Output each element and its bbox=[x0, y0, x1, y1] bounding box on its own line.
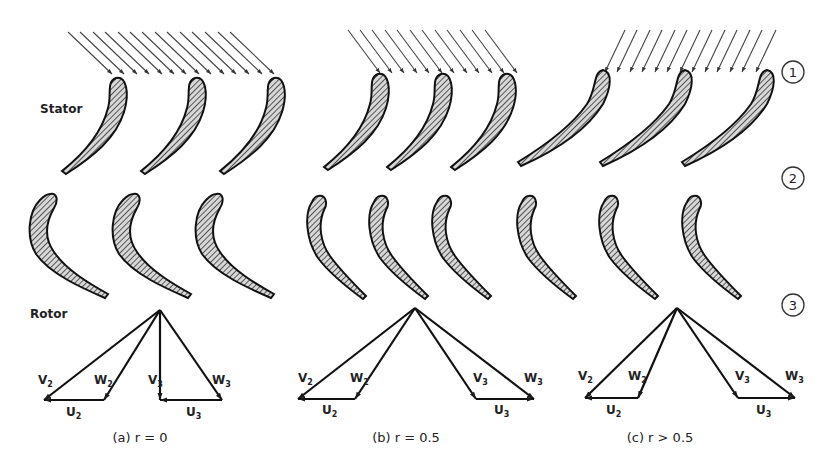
svg-text:W3: W3 bbox=[524, 371, 543, 387]
station-3-marker: 3 bbox=[782, 294, 804, 316]
svg-text:W3: W3 bbox=[212, 373, 231, 389]
caption-a: (a) r = 0 bbox=[112, 430, 167, 445]
station-2-marker: 2 bbox=[782, 167, 804, 189]
turbine-stage-diagram: Stator bbox=[0, 0, 835, 465]
stator-row: Stator bbox=[40, 30, 776, 174]
w3-vector bbox=[677, 308, 795, 398]
rotor-blade bbox=[599, 196, 658, 299]
svg-text:U2: U2 bbox=[322, 403, 337, 419]
svg-text:U2: U2 bbox=[606, 403, 621, 419]
rotor-blade bbox=[517, 196, 576, 299]
rotor-blade bbox=[682, 196, 741, 299]
rotor-blade bbox=[196, 194, 274, 298]
w3-vector bbox=[415, 308, 534, 399]
rotor-blade bbox=[307, 196, 366, 299]
svg-text:W2: W2 bbox=[350, 371, 369, 387]
station-markers: 1 2 3 bbox=[782, 61, 804, 316]
svg-text:V3: V3 bbox=[473, 371, 488, 387]
svg-text:2: 2 bbox=[789, 171, 797, 186]
caption-b: (b) r = 0.5 bbox=[372, 430, 440, 445]
velocity-triangle-a bbox=[44, 310, 222, 400]
velocity-labels-a: V2 W2 V3 W3 U2 U3 bbox=[38, 373, 231, 421]
svg-text:V2: V2 bbox=[298, 371, 313, 387]
svg-text:3: 3 bbox=[789, 298, 797, 313]
rotor-blade bbox=[432, 196, 491, 299]
svg-text:W2: W2 bbox=[628, 369, 647, 385]
rotor-row bbox=[30, 194, 741, 299]
stator-blade bbox=[451, 74, 516, 170]
svg-text:V2: V2 bbox=[578, 369, 593, 385]
rotor-blade bbox=[369, 196, 428, 299]
stator-blade bbox=[518, 70, 610, 166]
rotor-blade bbox=[113, 194, 191, 298]
svg-text:1: 1 bbox=[789, 65, 797, 80]
svg-text:U2: U2 bbox=[66, 405, 81, 421]
caption-c: (c) r > 0.5 bbox=[627, 430, 694, 445]
stator-blades-b bbox=[324, 74, 516, 170]
stator-blade bbox=[62, 78, 127, 174]
v3-vector bbox=[677, 308, 738, 398]
stator-blade bbox=[141, 78, 206, 174]
stator-blade bbox=[324, 74, 389, 170]
station-1-marker: 1 bbox=[782, 61, 804, 83]
svg-text:U3: U3 bbox=[494, 403, 509, 419]
velocity-triangle-c bbox=[585, 308, 795, 398]
svg-text:W2: W2 bbox=[94, 373, 113, 389]
inlet-flow-arrows-a bbox=[68, 32, 274, 74]
stator-blade bbox=[220, 78, 285, 174]
inlet-flow-arrows-c bbox=[605, 30, 776, 72]
velocity-triangle-b bbox=[298, 308, 534, 399]
stator-blade bbox=[682, 70, 774, 166]
svg-text:U3: U3 bbox=[756, 403, 771, 419]
svg-text:W3: W3 bbox=[785, 369, 804, 385]
svg-text:V3: V3 bbox=[735, 369, 750, 385]
stator-blade bbox=[387, 74, 452, 170]
inlet-flow-arrows-b bbox=[348, 30, 517, 73]
stator-blades-a bbox=[62, 78, 285, 174]
rotor-label: Rotor bbox=[30, 307, 67, 321]
rotor-blade bbox=[30, 194, 108, 298]
svg-text:U3: U3 bbox=[186, 405, 201, 421]
stator-blades-c bbox=[518, 70, 774, 166]
stator-label: Stator bbox=[40, 102, 82, 116]
v3-vector bbox=[415, 308, 476, 399]
velocity-labels-c: V2 W2 V3 W3 U2 U3 bbox=[578, 369, 804, 419]
svg-text:V2: V2 bbox=[38, 373, 53, 389]
v2-vector bbox=[585, 308, 677, 398]
v2-vector bbox=[298, 308, 415, 399]
stator-blade bbox=[600, 70, 692, 166]
